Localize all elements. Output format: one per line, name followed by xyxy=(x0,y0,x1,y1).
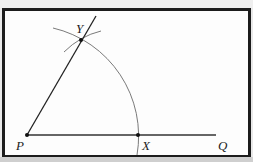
point-p xyxy=(25,133,29,137)
geometry-construction: Y P X Q xyxy=(0,0,253,162)
label-x: X xyxy=(141,138,151,153)
label-q: Q xyxy=(218,138,228,153)
label-p: P xyxy=(15,138,24,153)
label-y: Y xyxy=(76,21,85,36)
ray-py xyxy=(27,16,96,135)
point-y xyxy=(79,38,83,42)
arc-centered-p xyxy=(53,28,139,155)
point-x xyxy=(136,133,140,137)
